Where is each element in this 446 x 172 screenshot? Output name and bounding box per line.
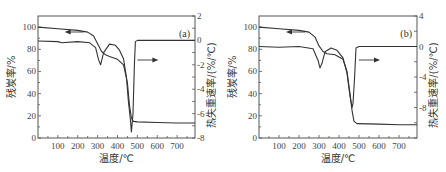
panel-label: (b) bbox=[400, 28, 412, 40]
y-left-tick-label: 80 bbox=[248, 44, 258, 54]
y-right-tick-label: 0 bbox=[197, 35, 202, 45]
chart-panel-b: 100200300400500600700020406080100-8-404(… bbox=[223, 0, 446, 172]
y-right-tick-label: -4 bbox=[197, 84, 205, 94]
y-left-tick-label: 60 bbox=[27, 66, 37, 76]
x-tick-label: 700 bbox=[170, 141, 184, 151]
y-right-tick-label: 0 bbox=[419, 42, 424, 52]
x-axis-title: 温度/℃ bbox=[321, 152, 356, 164]
chart-panel-a: 100200300400500600700020406080100-8-6-4-… bbox=[0, 0, 223, 172]
panel-label: (a) bbox=[179, 28, 190, 40]
x-tick-label: 200 bbox=[71, 141, 85, 151]
x-tick-label: 300 bbox=[312, 141, 326, 151]
y-right-tick-label: -2 bbox=[197, 60, 205, 70]
y-left-tick-label: 20 bbox=[27, 111, 37, 121]
arrowhead-right-icon bbox=[152, 58, 158, 63]
y-left-tick-label: 60 bbox=[248, 66, 258, 76]
x-tick-label: 600 bbox=[150, 141, 164, 151]
x-tick-label: 100 bbox=[272, 141, 286, 151]
arrowhead-left-icon bbox=[65, 30, 71, 35]
y-right-tick-label: -8 bbox=[197, 133, 205, 143]
y-left-tick-label: 100 bbox=[23, 22, 37, 32]
y-left-tick-label: 40 bbox=[27, 89, 37, 99]
arrowhead-right-icon bbox=[374, 58, 380, 63]
y-right-tick-label: -4 bbox=[419, 72, 427, 82]
x-tick-label: 500 bbox=[131, 141, 145, 151]
y-right-tick-label: 4 bbox=[419, 11, 424, 21]
y-left-axis-title: 残炭率/% bbox=[226, 56, 238, 99]
x-tick-label: 100 bbox=[51, 141, 65, 151]
x-tick-label: 700 bbox=[392, 141, 406, 151]
x-tick-label: 300 bbox=[91, 141, 105, 151]
y-right-axis-title: 热失重速率/(%/℃) bbox=[205, 42, 217, 127]
y-left-tick-label: 40 bbox=[248, 89, 258, 99]
y-left-tick-label: 20 bbox=[248, 111, 258, 121]
y-left-tick-label: 80 bbox=[27, 44, 37, 54]
x-tick-label: 400 bbox=[111, 141, 125, 151]
tg-curve bbox=[259, 27, 417, 125]
x-tick-label: 400 bbox=[332, 141, 346, 151]
x-tick-label: 200 bbox=[292, 141, 306, 151]
tg-curve bbox=[38, 27, 195, 123]
tga-chart-b: 100200300400500600700020406080100-8-404(… bbox=[223, 0, 446, 172]
y-left-axis-title: 残炭率/% bbox=[5, 56, 17, 99]
y-left-tick-label: 0 bbox=[32, 133, 37, 143]
tga-chart-a: 100200300400500600700020406080100-8-6-4-… bbox=[0, 0, 223, 172]
plot-frame bbox=[259, 16, 417, 138]
x-axis-title: 温度/℃ bbox=[99, 152, 134, 164]
y-left-tick-label: 0 bbox=[253, 133, 258, 143]
y-left-tick-label: 100 bbox=[244, 22, 258, 32]
dtg-curve bbox=[259, 47, 417, 108]
y-right-tick-label: 2 bbox=[197, 11, 202, 21]
y-right-tick-label: -6 bbox=[197, 109, 205, 119]
y-right-axis-title: 热失重速率/(%/℃) bbox=[427, 42, 439, 127]
y-right-tick-label: -8 bbox=[419, 103, 427, 113]
dtg-curve bbox=[38, 40, 195, 131]
x-tick-label: 500 bbox=[352, 141, 366, 151]
arrowhead-left-icon bbox=[286, 30, 292, 35]
plot-frame bbox=[38, 16, 195, 138]
x-tick-label: 600 bbox=[372, 141, 386, 151]
